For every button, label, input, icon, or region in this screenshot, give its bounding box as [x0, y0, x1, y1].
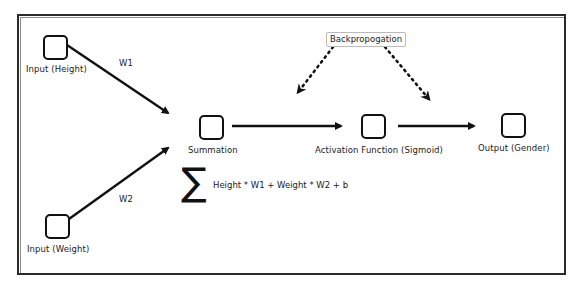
- backprop-arrow-left: [299, 47, 333, 91]
- sigma-icon: ∑: [181, 163, 207, 201]
- backpropagation-label: Backpropogation: [326, 32, 406, 47]
- node-input-weight[interactable]: [45, 214, 70, 239]
- node-input-height[interactable]: [43, 35, 68, 60]
- edge-height-to-summation: [67, 45, 168, 113]
- node-activation-label: Activation Function (Sigmoid): [315, 145, 443, 155]
- node-input-weight-label: Input (Weight): [27, 244, 89, 254]
- node-summation[interactable]: [199, 115, 224, 140]
- node-output[interactable]: [501, 113, 526, 138]
- edge-label-w1: W1: [119, 58, 133, 68]
- summation-formula: Height * W1 + Weight * W2 + b: [213, 180, 348, 190]
- node-activation[interactable]: [361, 114, 386, 139]
- node-summation-label: Summation: [188, 145, 238, 155]
- edge-label-w2: W2: [119, 194, 133, 204]
- node-output-label: Output (Gender): [478, 143, 550, 153]
- edge-weight-to-summation: [69, 148, 168, 219]
- node-input-height-label: Input (Height): [26, 64, 87, 74]
- backprop-arrow-right: [385, 47, 428, 98]
